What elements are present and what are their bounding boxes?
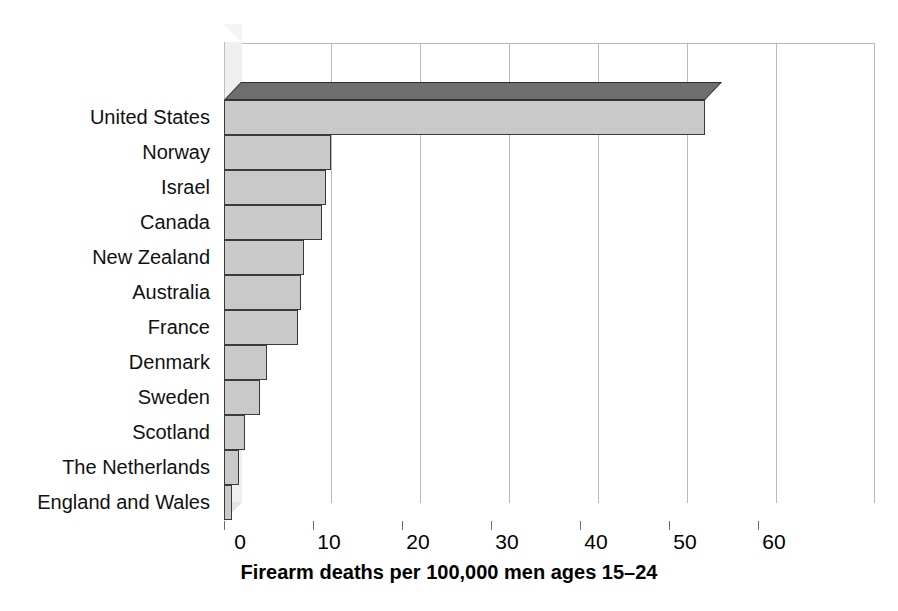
category-axis-labels: United States Norway Israel Canada New Z…	[0, 100, 214, 520]
bar-france	[224, 310, 298, 345]
bar-canada	[224, 205, 322, 240]
firearm-deaths-bar-chart: United States Norway Israel Canada New Z…	[0, 0, 898, 611]
x-tick-label-60: 60	[744, 530, 804, 554]
category-label-canada: Canada	[0, 205, 214, 240]
bar-australia	[224, 275, 301, 310]
x-tick-60	[758, 521, 759, 530]
bar-row	[224, 275, 858, 310]
x-tick-label-50: 50	[655, 530, 715, 554]
category-label-norway: Norway	[0, 135, 214, 170]
x-tick-label-40: 40	[566, 530, 626, 554]
bar-denmark	[224, 345, 267, 380]
category-label-denmark: Denmark	[0, 345, 214, 380]
bar-row	[224, 135, 858, 170]
bar-row	[224, 450, 858, 485]
x-tick-label-20: 20	[388, 530, 448, 554]
bar-series	[224, 100, 858, 520]
bar-sweden	[224, 380, 260, 415]
x-tick-0	[224, 521, 225, 530]
x-axis-title: Firearm deaths per 100,000 men ages 15–2…	[0, 561, 898, 584]
x-tick-20	[402, 521, 403, 530]
bar-england-and-wales	[224, 485, 232, 520]
x-tick-label-10: 10	[299, 530, 359, 554]
x-tick-30	[491, 521, 492, 530]
bar-row	[224, 170, 858, 205]
bar-the-netherlands	[224, 450, 239, 485]
bar-top-face-united-states	[224, 82, 722, 100]
bar-row	[224, 205, 858, 240]
bar-norway	[224, 135, 331, 170]
category-label-france: France	[0, 310, 214, 345]
bar-scotland	[224, 415, 245, 450]
x-tick-10	[313, 521, 314, 530]
plot-area	[224, 43, 858, 521]
bar-israel	[224, 170, 326, 205]
bar-row	[224, 485, 858, 520]
bar-row	[224, 310, 858, 345]
category-label-scotland: Scotland	[0, 415, 214, 450]
bar-row	[224, 415, 858, 450]
category-label-sweden: Sweden	[0, 380, 214, 415]
category-label-england-and-wales: England and Wales	[0, 485, 214, 520]
category-label-new-zealand: New Zealand	[0, 240, 214, 275]
bar-row	[224, 100, 858, 135]
plot-left-wall-top	[224, 24, 242, 43]
bar-row	[224, 345, 858, 380]
x-tick-label-30: 30	[477, 530, 537, 554]
x-tick-50	[669, 521, 670, 530]
x-tick-40	[580, 521, 581, 530]
category-label-israel: Israel	[0, 170, 214, 205]
x-tick-label-0: 0	[210, 530, 270, 554]
bar-new-zealand	[224, 240, 304, 275]
category-label-australia: Australia	[0, 275, 214, 310]
bar-united-states	[224, 100, 705, 135]
category-label-united-states: United States	[0, 100, 214, 135]
bar-row	[224, 240, 858, 275]
category-label-the-netherlands: The Netherlands	[0, 450, 214, 485]
bar-row	[224, 380, 858, 415]
